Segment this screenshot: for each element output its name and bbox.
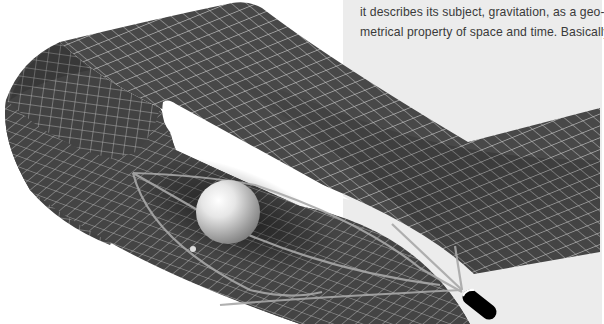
small-body xyxy=(190,246,196,252)
body-text-line-1: it describes its subject, gravitation, a… xyxy=(360,2,600,22)
body-text: it describes its subject, gravitation, a… xyxy=(360,2,600,42)
massive-sphere xyxy=(196,180,260,244)
body-text-line-2: metrical property of space and time. Bas… xyxy=(360,22,600,42)
black-capsule-observer xyxy=(463,290,489,312)
spacetime-illustration xyxy=(0,0,604,324)
